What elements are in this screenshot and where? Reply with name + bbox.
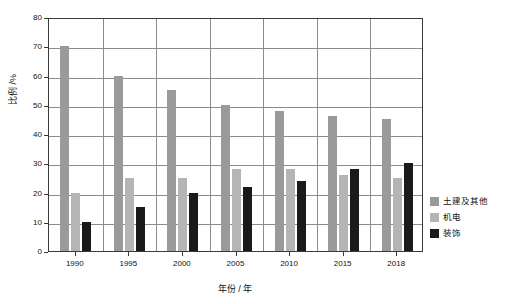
bar <box>136 207 145 251</box>
bar <box>382 119 391 251</box>
y-tick-mark <box>44 252 48 253</box>
x-tick-mark <box>128 252 129 256</box>
y-tick-label: 60 <box>12 73 42 81</box>
bar <box>232 169 241 251</box>
bar <box>71 193 80 252</box>
bar <box>125 178 134 251</box>
legend-label-zhuangshi: 装饰 <box>443 228 461 238</box>
x-axis-title: 年份 / 年 <box>0 282 470 295</box>
x-tick-mark <box>343 252 344 256</box>
bar <box>339 175 348 251</box>
legend-item: 土建及其他 <box>430 196 488 206</box>
legend-swatch-zhuangshi <box>430 229 439 238</box>
bar <box>286 169 295 251</box>
legend-label-tujian: 土建及其他 <box>443 196 488 206</box>
x-tick-label: 2018 <box>376 259 416 268</box>
x-tick-label: 2005 <box>216 259 256 268</box>
bar <box>328 116 337 251</box>
legend-item: 装饰 <box>430 228 488 238</box>
x-tick-label: 2015 <box>323 259 363 268</box>
bar <box>114 76 123 252</box>
x-tick-mark <box>75 252 76 256</box>
y-tick-label: 50 <box>12 102 42 110</box>
y-tick-label: 10 <box>12 219 42 227</box>
bar <box>275 111 284 251</box>
bars-layer <box>49 19 422 251</box>
x-tick-mark <box>236 252 237 256</box>
bar <box>178 178 187 251</box>
x-tick-label: 2000 <box>162 259 202 268</box>
bar <box>297 181 306 251</box>
y-tick-label: 0 <box>12 248 42 256</box>
x-tick-label: 1990 <box>55 259 95 268</box>
plot-area <box>48 18 423 252</box>
legend-item: 机电 <box>430 212 488 222</box>
bar-chart: 比例 /% 01020304050607080 1990199520002005… <box>0 0 507 304</box>
y-tick-label: 80 <box>12 14 42 22</box>
bar <box>221 105 230 251</box>
legend: 土建及其他 机电 装饰 <box>430 196 488 244</box>
bar <box>189 193 198 252</box>
bar <box>350 169 359 251</box>
x-tick-mark <box>289 252 290 256</box>
bar <box>393 178 402 251</box>
bar <box>404 163 413 251</box>
bar <box>243 187 252 251</box>
bar <box>82 222 91 251</box>
legend-swatch-jidian <box>430 213 439 222</box>
y-tick-label: 30 <box>12 160 42 168</box>
y-tick-label: 20 <box>12 190 42 198</box>
legend-label-jidian: 机电 <box>443 212 461 222</box>
x-tick-label: 2010 <box>269 259 309 268</box>
legend-swatch-tujian <box>430 197 439 206</box>
y-tick-label: 40 <box>12 131 42 139</box>
x-tick-mark <box>396 252 397 256</box>
y-tick-label: 70 <box>12 43 42 51</box>
x-tick-mark <box>182 252 183 256</box>
bar <box>60 46 69 251</box>
x-tick-label: 1995 <box>108 259 148 268</box>
bar <box>167 90 176 251</box>
